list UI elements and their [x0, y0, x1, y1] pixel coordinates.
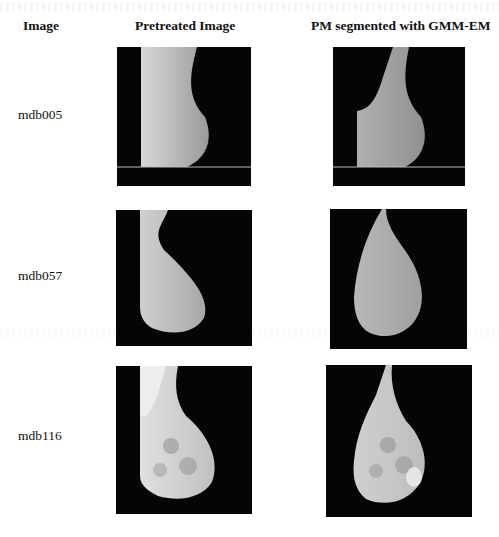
- row-label: mdb116: [18, 428, 62, 444]
- row-label: mdb005: [18, 107, 62, 123]
- segmented-image: [326, 365, 472, 517]
- column-header-image: Image: [23, 18, 59, 34]
- pretreated-image: [117, 47, 251, 186]
- column-header-segmented: PM segmented with GMM-EM: [311, 18, 499, 34]
- segmented-image: [330, 209, 467, 349]
- segmented-image: [333, 47, 465, 186]
- row-label: mdb057: [18, 268, 62, 284]
- bleed-through-text: [0, 2, 499, 12]
- pretreated-image: [116, 366, 252, 514]
- pretreated-image: [116, 210, 252, 346]
- column-header-pretreated: Pretreated Image: [135, 18, 235, 34]
